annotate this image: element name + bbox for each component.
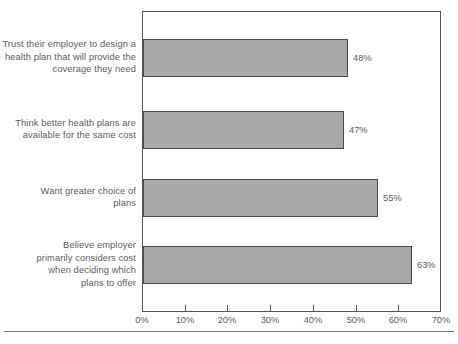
bar-value-label-0: 48% (353, 53, 372, 63)
category-label-line: Think better health plans are (15, 118, 136, 128)
x-tick-50 (356, 305, 357, 312)
x-tick-label-50: 50% (336, 314, 376, 326)
category-axis-labels: Trust their employer to design a health … (0, 11, 139, 312)
category-label-line: available for the same cost (23, 130, 136, 140)
plot-area: 48%47%55%63% (142, 11, 441, 312)
x-tick-10 (185, 305, 186, 312)
category-label-line: health plan that will provide the (5, 52, 136, 62)
bar-2 (143, 179, 378, 217)
x-tick-label-30: 30% (250, 314, 290, 326)
x-axis-line (142, 311, 441, 312)
category-label-employer-considers-cost: Believe employer primarily considers cos… (0, 239, 136, 289)
bar-0 (143, 39, 348, 77)
x-tick-60 (398, 305, 399, 312)
category-label-greater-choice: Want greater choice of plans (0, 185, 136, 210)
category-label-line: plans to offer (81, 278, 136, 288)
x-tick-30 (270, 305, 271, 312)
x-tick-label-10: 10% (165, 314, 205, 326)
category-label-better-plans-same-cost: Think better health plans are available … (0, 117, 136, 142)
bar-1 (143, 111, 344, 149)
category-label-line: Believe employer (63, 240, 136, 250)
category-label-trust-employer: Trust their employer to design a health … (0, 38, 136, 76)
bottom-divider-rule (4, 331, 454, 332)
category-label-line: Want greater choice of (41, 186, 136, 196)
bar-3 (143, 246, 412, 284)
x-tick-label-0: 0% (122, 314, 162, 326)
x-tick-20 (227, 305, 228, 312)
category-label-line: when deciding which (48, 265, 136, 275)
bars-container: 48%47%55%63% (143, 12, 440, 311)
category-label-line: coverage they need (53, 64, 136, 74)
bar-value-label-1: 47% (349, 125, 368, 135)
category-label-line: plans (113, 198, 136, 208)
category-label-line: Trust their employer to design a (2, 39, 136, 49)
x-tick-40 (313, 305, 314, 312)
x-tick-label-60: 60% (378, 314, 418, 326)
x-tick-label-70: 70% (421, 314, 458, 326)
x-tick-label-20: 20% (207, 314, 247, 326)
bar-value-label-2: 55% (383, 193, 402, 203)
bar-chart-figure: Trust their employer to design a health … (0, 0, 458, 344)
category-label-line: primarily considers cost (36, 253, 136, 263)
bar-value-label-3: 63% (417, 260, 436, 270)
x-tick-label-40: 40% (293, 314, 333, 326)
